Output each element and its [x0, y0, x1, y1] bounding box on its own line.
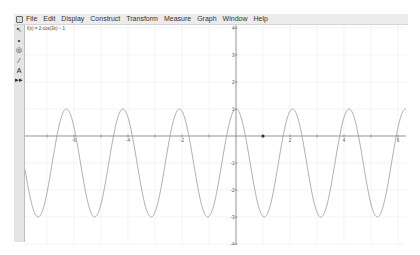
menu-window[interactable]: Window [223, 14, 248, 24]
svg-text:2: 2 [289, 138, 292, 143]
compass-tool-icon[interactable]: ◎ [14, 45, 24, 55]
menu-construct[interactable]: Construct [90, 14, 120, 24]
arrow-tool-icon[interactable]: ↖ [14, 25, 24, 35]
menu-transform[interactable]: Transform [126, 14, 158, 24]
svg-text:-1: -1 [230, 161, 234, 166]
custom-tool-icon[interactable]: ▸▸ [14, 75, 24, 85]
toolbox: ↖ • ◎ ⁄ A ▸▸ [14, 25, 25, 242]
menu-measure[interactable]: Measure [164, 14, 191, 24]
text-tool-icon[interactable]: A [14, 65, 24, 75]
menu-bar: File Edit Display Construct Transform Me… [14, 14, 408, 25]
svg-text:-4: -4 [126, 138, 130, 143]
sketchpad-icon[interactable] [16, 16, 23, 23]
svg-text:-2: -2 [180, 138, 184, 143]
menu-display[interactable]: Display [61, 14, 84, 24]
svg-text:6: 6 [397, 138, 400, 143]
svg-text:-2: -2 [230, 188, 234, 193]
menu-edit[interactable]: Edit [43, 14, 55, 24]
straightedge-tool-icon[interactable]: ⁄ [14, 55, 24, 65]
menu-file[interactable]: File [26, 14, 37, 24]
graph-plot[interactable]: -6-4-22464321-1-2-3-4 [25, 25, 406, 245]
svg-text:-4: -4 [230, 242, 234, 246]
menu-help[interactable]: Help [254, 14, 268, 24]
svg-text:4: 4 [343, 138, 346, 143]
svg-text:-6: -6 [72, 138, 76, 143]
point-tool-icon[interactable]: • [14, 35, 24, 45]
svg-text:-3: -3 [230, 215, 234, 220]
function-label[interactable]: f(x) = 2·cos(3x) − 1 [27, 26, 65, 31]
menu-graph[interactable]: Graph [197, 14, 216, 24]
sketch-canvas[interactable]: -6-4-22464321-1-2-3-4 [25, 25, 406, 245]
